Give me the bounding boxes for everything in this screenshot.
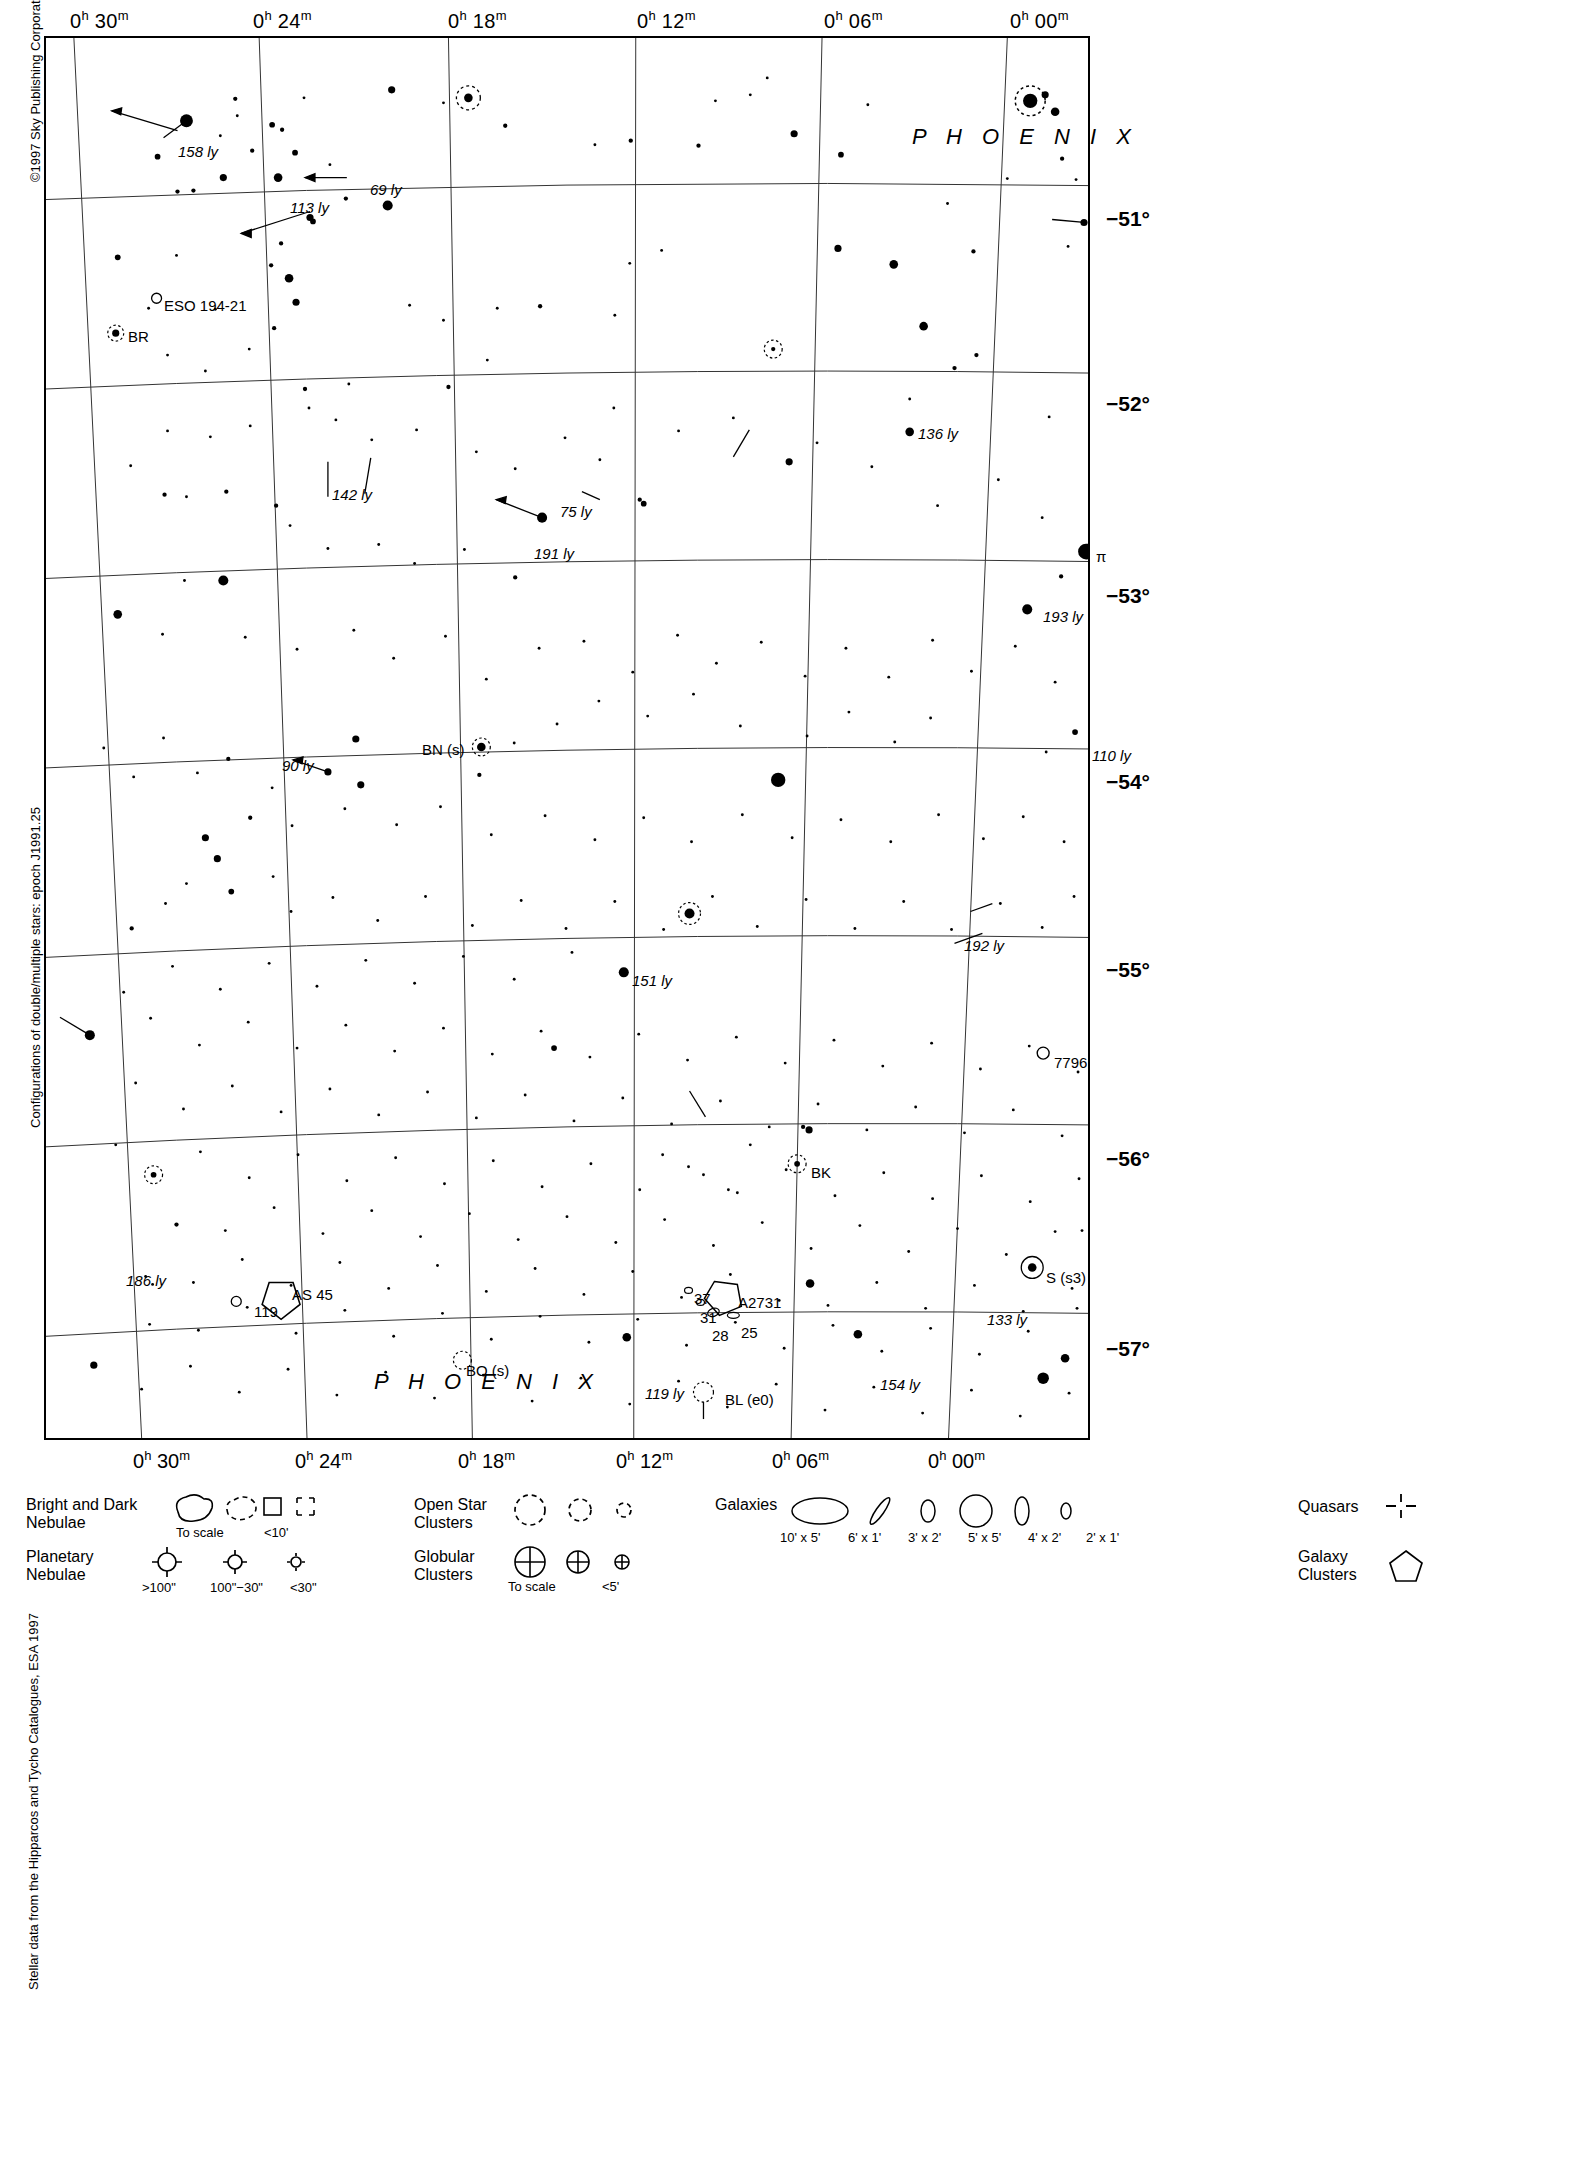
star-marker [1029, 1200, 1032, 1203]
star-marker [685, 908, 695, 918]
quasar-icon [1382, 1490, 1422, 1520]
star-marker [540, 1030, 543, 1033]
star-marker [805, 898, 808, 901]
star-marker [1073, 895, 1076, 898]
star-marker [893, 741, 896, 744]
star-marker [231, 1085, 234, 1088]
star-marker [956, 1227, 959, 1230]
star-marker [970, 670, 973, 673]
galaxy-shape-icons [790, 1490, 1090, 1530]
star-marker [246, 1306, 249, 1309]
star-marker [756, 925, 759, 928]
star-marker [224, 1229, 227, 1232]
map-label-20: AS 45 [292, 1286, 333, 1303]
star-marker [344, 1024, 347, 1027]
star-marker [408, 304, 411, 307]
star-marker [290, 910, 293, 913]
map-label-24: 37 [694, 1290, 711, 1307]
star-marker [628, 1403, 631, 1406]
star-marker [791, 130, 798, 137]
star-marker [865, 1128, 868, 1131]
star-marker [702, 1173, 705, 1176]
star-marker [274, 173, 283, 182]
star-marker [1014, 645, 1017, 648]
star-marker [443, 1182, 446, 1185]
star-marker [881, 1065, 884, 1068]
star-marker [999, 902, 1002, 905]
dec-label-3: −54° [1106, 770, 1150, 794]
star-marker [660, 249, 663, 252]
star-marker [1063, 840, 1066, 843]
star-marker [952, 366, 956, 370]
star-marker [880, 1350, 883, 1353]
star-marker [1051, 107, 1060, 116]
star-marker [486, 359, 489, 362]
star-marker [233, 97, 237, 101]
star-marker [296, 648, 299, 651]
star-marker [766, 76, 769, 79]
star-marker [588, 1056, 591, 1059]
star-marker [662, 928, 665, 931]
star-marker [1078, 1177, 1081, 1180]
star-marker [424, 895, 427, 898]
star-marker [485, 678, 488, 681]
star-marker [287, 1368, 290, 1371]
star-marker [593, 838, 596, 841]
star-marker [882, 1171, 885, 1174]
star-marker [442, 101, 445, 104]
star-marker [248, 816, 252, 820]
map-label-8: 191 ly [534, 545, 574, 562]
star-marker [1048, 415, 1051, 418]
star-marker [714, 99, 717, 102]
star-marker [439, 805, 442, 808]
star-marker [114, 1143, 117, 1146]
star-marker [847, 711, 850, 714]
legend-planetary-size-3: <30" [290, 1580, 317, 1595]
star-marker [197, 1329, 200, 1332]
star-marker [347, 383, 350, 386]
configurations-credit: Configurations of double/multiple stars:… [28, 807, 43, 1128]
star-marker [729, 1273, 732, 1276]
ra-bottom-label-5: 0h 00m [928, 1448, 985, 1473]
star-marker [387, 1287, 390, 1290]
star-marker [690, 840, 693, 843]
star-marker [771, 347, 775, 351]
star-marker [113, 610, 122, 619]
star-marker [209, 435, 212, 438]
star-marker [1054, 1230, 1057, 1233]
open-cluster-icons [510, 1490, 650, 1530]
map-label-15: 151 ly [632, 972, 672, 989]
star-marker [761, 1221, 764, 1224]
star-marker [292, 299, 299, 306]
star-marker [490, 1338, 493, 1341]
star-marker [175, 189, 179, 193]
star-marker [520, 899, 523, 902]
star-marker [338, 1261, 341, 1264]
star-marker [937, 813, 940, 816]
map-label-17: BK [811, 1164, 831, 1181]
star-marker [388, 86, 395, 93]
star-marker [413, 562, 416, 565]
star-marker [551, 1045, 557, 1051]
map-label-13: 90 ly [282, 757, 314, 774]
star-marker [238, 1391, 241, 1394]
star-marker [619, 967, 629, 977]
legend-galaxies-label: Galaxies [715, 1496, 777, 1514]
galaxy-cluster-icon [1386, 1546, 1430, 1586]
star-marker [285, 274, 294, 283]
legend-planetary-size-2: 100"−30" [210, 1580, 263, 1595]
star-marker [377, 1113, 380, 1116]
star-marker [192, 1281, 195, 1284]
star-marker [768, 1125, 771, 1128]
star-marker [316, 985, 319, 988]
star-marker [343, 1309, 346, 1312]
star-marker [303, 387, 307, 391]
star-marker [90, 1362, 97, 1369]
star-marker [182, 1108, 185, 1111]
star-marker [1041, 926, 1044, 929]
map-label-5: 136 ly [918, 425, 958, 442]
ra-top-label-3: 0h 12m [637, 8, 696, 33]
star-marker [715, 662, 718, 665]
deepsky-symbols [108, 86, 1088, 1402]
star-marker [444, 635, 447, 638]
